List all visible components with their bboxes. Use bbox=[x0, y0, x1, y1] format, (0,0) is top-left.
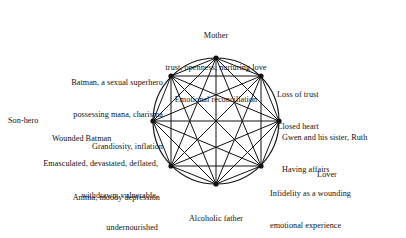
label-emasculated-line-1: Emasculated, devastated, deflated, bbox=[2, 159, 158, 170]
chord-lower-right-to-bottom bbox=[216, 166, 261, 184]
label-anima: Anima, moody depression bbox=[44, 172, 160, 225]
label-infidelity-line-1: Infidelity as a wounding bbox=[270, 189, 388, 200]
label-alcoholic-father: Alcoholic father Wounded king Father's i… bbox=[145, 193, 287, 238]
node-lower-left bbox=[168, 163, 173, 168]
chord-right-to-lower-left bbox=[171, 121, 279, 166]
node-lower-right bbox=[258, 163, 263, 168]
chord-lower-right-to-left bbox=[153, 121, 261, 166]
label-anima-line-1: Anima, moody depression bbox=[44, 193, 160, 204]
label-infidelity: Infidelity as a wounding emotional exper… bbox=[270, 168, 388, 238]
label-mother-line-1: Mother bbox=[128, 31, 304, 42]
label-alcoholic-father-line-1: Alcoholic father bbox=[145, 214, 287, 225]
node-bottom bbox=[213, 181, 218, 186]
label-gwen-ruth-line-1: Gwen and his sister, Ruth bbox=[282, 133, 406, 144]
label-infidelity-line-2: emotional experience bbox=[270, 221, 388, 232]
diagram-canvas: Mother trust, openness, nurturing love E… bbox=[0, 0, 406, 238]
label-batman-line-1: Batman, a sexual superhero bbox=[18, 78, 163, 89]
label-loss-of-trust-line-1: Loss of trust bbox=[277, 90, 373, 101]
chord-bottom-to-lower-left bbox=[171, 166, 216, 184]
